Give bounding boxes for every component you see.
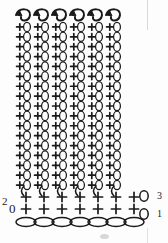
column-1-chain-loop-6 (42, 82, 49, 91)
column-4-chain-loop-14 (96, 161, 103, 170)
column-0-cross-12 (17, 142, 23, 148)
row-1-stitches-6 (129, 204, 138, 213)
column-0-cross-4 (17, 63, 23, 69)
column-0-cross-11 (17, 132, 23, 138)
column-2-cross-14 (53, 162, 59, 168)
column-1-cross-9 (35, 113, 41, 119)
column-2-chain-loop-11 (60, 131, 67, 140)
column-5-base-hook (112, 186, 115, 196)
arrow-head (106, 11, 112, 17)
column-0-chain-loop-5 (24, 72, 31, 81)
arrow-head (52, 11, 58, 17)
column-2-cross-12 (53, 142, 59, 148)
column-0-chain-loop-11 (24, 131, 31, 140)
column-1-chain-loop-7 (42, 91, 49, 100)
column-0-chain-loop-12 (24, 141, 31, 150)
row-1-stitches-1 (39, 204, 48, 213)
crochet-chart-diagram: 2 0 3 1 (0, 0, 168, 243)
turning-chain-right-row3 (140, 191, 148, 201)
foundation-chain-loop-4 (88, 218, 108, 227)
column-4-chain-loop-7 (96, 91, 103, 100)
column-4-chain-loop-1 (96, 32, 103, 41)
column-3-chain-loop-14 (78, 161, 85, 170)
column-2-chain-loop-1 (60, 32, 67, 41)
column-2-chain-loop-9 (60, 111, 67, 120)
column-1-chain-loop-9 (42, 111, 49, 120)
column-1-chain-loop-14 (42, 161, 49, 170)
column-3-cross-10 (71, 123, 77, 129)
column-4-cross-11 (89, 132, 95, 138)
column-5-chain-loop-8 (114, 101, 121, 110)
column-4-cross-5 (89, 73, 95, 79)
scan-artifact (100, 234, 109, 239)
column-5-cross-5 (107, 73, 113, 79)
column-3-base-hook (76, 186, 79, 196)
column-1-chain-loop-8 (42, 101, 49, 110)
column-4-chain-loop-0 (96, 22, 103, 31)
turning-arrow-3 (70, 9, 84, 20)
foundation-chain-loop-1 (34, 218, 54, 227)
column-1-chain-loop-12 (42, 141, 49, 150)
column-3-chain-loop-7 (78, 91, 85, 100)
chart-canvas (0, 0, 168, 243)
column-1-cross-0 (35, 24, 41, 30)
column-2-chain-loop-4 (60, 62, 67, 71)
column-4-cross-15 (89, 172, 95, 178)
column-4-chain-loop-8 (96, 101, 103, 110)
column-1-cross-14 (35, 162, 41, 168)
column-3-chain-loop-2 (78, 42, 85, 51)
column-2-cross-4 (53, 63, 59, 69)
column-0-chain-loop-2 (24, 42, 31, 51)
column-2-chain-loop-13 (60, 151, 67, 160)
column-2-chain-loop-8 (60, 101, 67, 110)
column-1-cross-8 (35, 103, 41, 109)
column-5-cross-9 (107, 113, 113, 119)
column-2-chain-loop-14 (60, 161, 67, 170)
column-1-base-hook (40, 186, 43, 196)
turning-arrow-1 (34, 9, 48, 20)
column-0-chain-loop-14 (24, 161, 31, 170)
column-4-chain-loop-16 (96, 180, 103, 189)
column-3-chain-loop-11 (78, 131, 85, 140)
column-4-chain-loop-13 (96, 151, 103, 160)
column-5-cross-4 (107, 63, 113, 69)
column-3-cross-2 (71, 44, 77, 50)
column-0-cross-8 (17, 103, 23, 109)
column-5-cross-3 (107, 53, 113, 59)
column-1-chain-loop-3 (42, 52, 49, 61)
column-3-cross-5 (71, 73, 77, 79)
column-0-chain-loop-7 (24, 91, 31, 100)
foundation-chain-loop-0 (16, 218, 36, 227)
row-label-0: 0 (9, 202, 16, 215)
column-0-chain-loop-3 (24, 52, 31, 61)
column-4-cross-14 (89, 162, 95, 168)
column-5-cross-10 (107, 123, 113, 129)
column-2-chain-loop-10 (60, 121, 67, 130)
turning-arrow-0 (16, 9, 30, 20)
column-4-chain-loop-10 (96, 121, 103, 130)
column-2-cross-6 (53, 83, 59, 89)
column-5-cross-2 (107, 44, 113, 50)
column-4-base-hook (94, 186, 97, 196)
row-2-stitches-6 (129, 192, 138, 201)
column-0-chain-loop-16 (24, 180, 31, 189)
column-0-cross-1 (17, 34, 23, 40)
row-1-stitches-5 (111, 204, 120, 213)
column-2-chain-loop-3 (60, 52, 67, 61)
column-1-cross-12 (35, 142, 41, 148)
column-2-cross-10 (53, 123, 59, 129)
column-0-cross-10 (17, 123, 23, 129)
column-3-chain-loop-13 (78, 151, 85, 160)
column-5-chain-loop-6 (114, 82, 121, 91)
column-2-chain-loop-0 (60, 22, 67, 31)
column-0-cross-6 (17, 83, 23, 89)
column-5-chain-loop-7 (114, 91, 121, 100)
column-3-chain-loop-6 (78, 82, 85, 91)
column-2-chain-loop-2 (60, 42, 67, 51)
column-1-chain-loop-0 (42, 22, 49, 31)
column-5-chain-loop-9 (114, 111, 121, 120)
column-4-chain-loop-12 (96, 141, 103, 150)
column-5-cross-11 (107, 132, 113, 138)
column-4-cross-6 (89, 83, 95, 89)
column-5-cross-15 (107, 172, 113, 178)
